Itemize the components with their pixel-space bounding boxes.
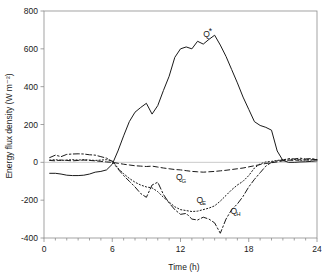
data-series-group	[50, 35, 317, 233]
y-tick-label: 200	[24, 120, 38, 130]
series-line-qe	[50, 159, 317, 211]
plot-frame	[44, 11, 317, 238]
annotation-sub-label: E	[202, 200, 206, 206]
y-tick-label: 600	[24, 44, 38, 54]
y-tick-label: 800	[24, 6, 38, 16]
y-axis-ticks: -400-2000200400600800	[21, 6, 44, 243]
annotation-qg: QG	[176, 172, 187, 183]
series-annotations-group: Q*QGQEQH	[176, 26, 241, 217]
x-tick-label: 6	[110, 244, 115, 254]
annotation-sub-label: G	[182, 178, 187, 184]
y-tick-label: 400	[24, 82, 38, 92]
x-axis-ticks: 06121824	[42, 238, 322, 254]
x-tick-label: 24	[312, 244, 322, 254]
y-axis-title: Energy flux density (W m⁻²)	[4, 73, 14, 178]
y-tick-label: -200	[21, 195, 38, 205]
annotation-qe: QE	[196, 195, 206, 206]
x-axis-title: Time (h)	[168, 262, 199, 272]
x-tick-label: 18	[244, 244, 254, 254]
x-tick-label: 12	[176, 244, 186, 254]
annotation-qh: QH	[231, 206, 241, 217]
chart-container: -400-2000200400600800 06121824 Q*QGQEQH …	[0, 0, 324, 276]
annotation-sub-label: H	[236, 211, 240, 217]
annotation-sub-label: *	[209, 26, 213, 36]
energy-flux-density-line-chart: -400-2000200400600800 06121824 Q*QGQEQH …	[0, 0, 324, 276]
series-line-qh	[50, 154, 317, 233]
x-tick-label: 0	[42, 244, 47, 254]
y-tick-label: -400	[21, 233, 38, 243]
y-tick-label: 0	[33, 157, 38, 167]
